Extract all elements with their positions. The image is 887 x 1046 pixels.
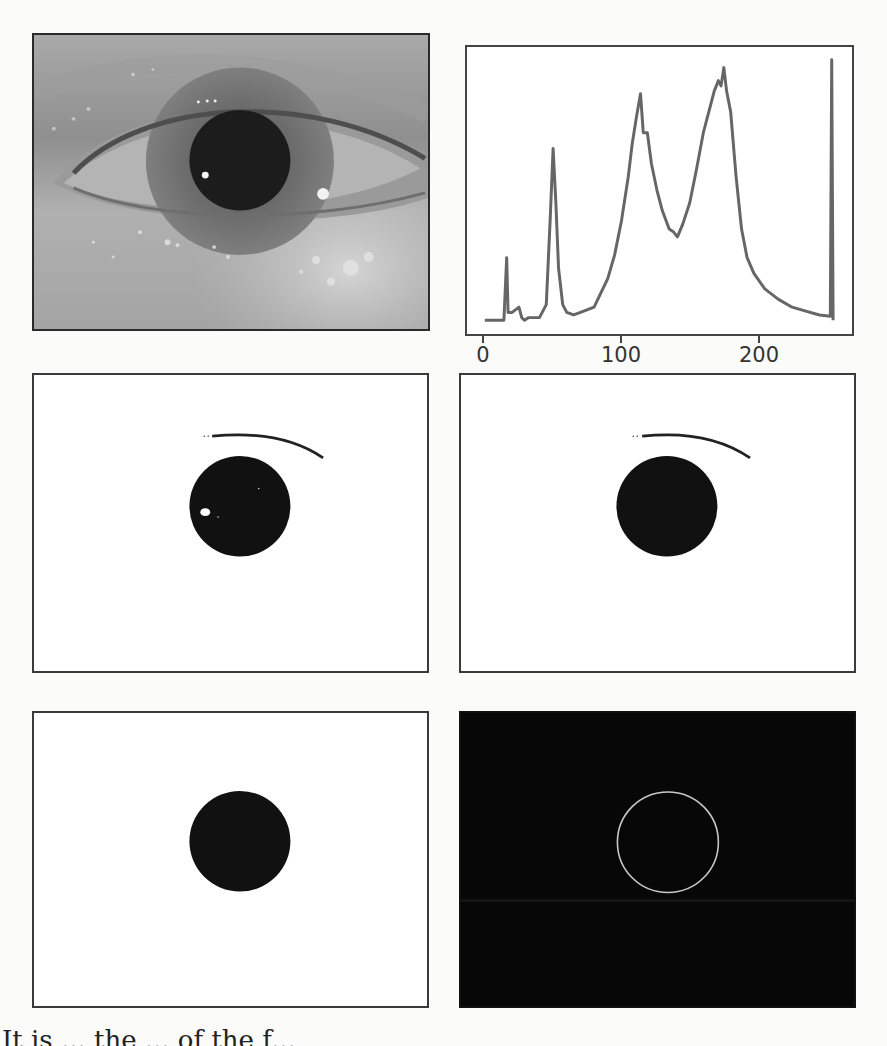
pupil-blob: [616, 456, 717, 557]
pupil-blob: [189, 456, 290, 557]
binary-image-reflection-removed: [459, 373, 856, 673]
pupil: [189, 110, 290, 211]
histogram-line: [485, 60, 833, 320]
binary-image-with-reflection: [32, 373, 429, 673]
x-tick-0: [482, 336, 484, 343]
histogram-plot: [467, 47, 852, 334]
eye-photo: [34, 35, 428, 329]
x-tick-200: [758, 336, 760, 343]
pupil-blob: [189, 791, 290, 892]
pupil-boundary-circle: [617, 792, 718, 893]
eye-photo-panel: [32, 33, 430, 331]
pupil-edge-panel: [459, 711, 856, 1008]
isolated-pupil-panel: [32, 711, 429, 1008]
x-tick-label-200: 200: [739, 343, 779, 367]
eyelash-curve: [642, 435, 750, 458]
x-tick-label-0: 0: [476, 343, 489, 367]
reflection-spot: [200, 508, 210, 516]
eyelash-curve: [212, 435, 323, 458]
x-tick-100: [620, 336, 622, 343]
figure-caption-partial: It is ... the ... of the f...: [0, 1022, 887, 1046]
x-tick-label-100: 100: [601, 343, 641, 367]
histogram-panel: [465, 45, 854, 336]
